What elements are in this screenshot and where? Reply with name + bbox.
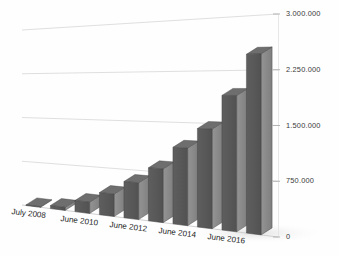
bar-front-face [99,193,114,217]
y-axis-tick-label: 3.000.000 [286,9,321,18]
bar-side-face [188,141,199,226]
bar [173,140,199,225]
y-axis-tick-label: 750.000 [286,176,314,185]
y-axis-tick-label: 2.250.000 [286,65,321,74]
bar [124,175,150,220]
bar-front-face [246,54,261,235]
bar-chart: 0750.0001.500.0002.250.0003.000.000 July… [0,0,339,256]
bar-side-face [212,122,223,229]
bar [197,122,223,229]
bar-side-face [163,162,174,223]
bar-side-face [237,89,248,232]
bar-side-face [139,176,150,220]
bar-front-face [173,147,188,225]
bar-front-face [148,168,163,223]
bar-front-face [197,129,212,229]
bar [99,186,125,217]
bar-side-face [261,47,272,235]
y-axis-tick-label: 0 [286,232,290,241]
bar [246,47,272,235]
bar-front-face [222,95,237,231]
bar [148,161,174,223]
y-axis-tick-label: 1.500.000 [286,121,321,130]
bar-front-face [75,201,90,214]
bar-front-face [124,182,139,220]
bar [222,88,248,231]
